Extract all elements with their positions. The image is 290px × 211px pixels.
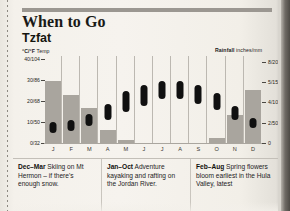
temperature-range-marker (195, 85, 202, 104)
temperature-range-marker (86, 114, 93, 126)
month-column (99, 60, 117, 143)
page-edge-shadow (281, 0, 290, 211)
month-column (208, 60, 226, 143)
month-column (62, 60, 80, 143)
tip-skiing-range: Dec–Mar (18, 163, 46, 170)
month-label: D (244, 146, 262, 152)
temperature-range-marker (50, 122, 57, 132)
temperature-range-marker (159, 81, 166, 100)
rainfall-bar (245, 90, 261, 143)
month-label: A (99, 146, 117, 152)
month-label: J (153, 146, 171, 152)
rain-tick-4: 0 (268, 140, 271, 146)
x-axis-baseline (44, 143, 262, 144)
plot-area (44, 60, 262, 143)
month-column (44, 60, 62, 143)
month-column (244, 60, 262, 143)
month-column (153, 60, 171, 143)
month-column (80, 60, 98, 143)
temp-tick-0: 40/104 (10, 56, 40, 62)
temp-tick-1: 30/86 (10, 77, 40, 83)
rain-tick-dash-0 (262, 62, 266, 63)
rain-tick-dash-4 (262, 143, 266, 144)
rain-tick-3: 2/50 (268, 120, 278, 126)
rainfall-bar (63, 95, 79, 143)
rain-tick-dash-3 (262, 123, 266, 124)
temperature-range-marker (213, 93, 220, 110)
page-crop-fade (13, 202, 279, 211)
month-column (117, 60, 135, 143)
tips-row: Dec–Mar Skiing on Mt Hermon – if there's… (13, 158, 279, 211)
temperature-range-marker (122, 91, 129, 112)
temperature-range-marker (249, 118, 256, 128)
temperature-range-marker (177, 81, 184, 100)
temp-tick-3: 10/50 (10, 119, 40, 125)
month-label: S (189, 146, 207, 152)
guidebook-page: When to Go Tzfat °C/°F Temp Rainfall inc… (0, 0, 290, 211)
temp-tick-4: 0/32 (10, 140, 40, 146)
temperature-range-marker (104, 104, 111, 121)
temp-tick-2: 20/68 (10, 98, 40, 104)
month-label: J (135, 146, 153, 152)
month-label: A (171, 146, 189, 152)
temperature-range-marker (231, 106, 238, 121)
month-label: N (226, 146, 244, 152)
tip-rafting-range: Jan–Oct (107, 163, 133, 170)
month-label: F (62, 146, 80, 152)
rainfall-bar (100, 130, 116, 143)
month-column (226, 60, 244, 143)
month-label: M (80, 146, 98, 152)
temperature-range-marker (68, 120, 75, 130)
rainfall-bar (45, 81, 61, 143)
month-label: J (44, 146, 62, 152)
month-column (135, 60, 153, 143)
rain-tick-dash-1 (262, 82, 266, 83)
month-label: M (117, 146, 135, 152)
tip-flowers-range: Feb–Aug (196, 163, 224, 170)
month-column (171, 60, 189, 143)
month-label: O (208, 146, 226, 152)
rain-tick-dash-2 (262, 102, 266, 103)
temperature-range-marker (140, 85, 147, 106)
month-column (189, 60, 207, 143)
